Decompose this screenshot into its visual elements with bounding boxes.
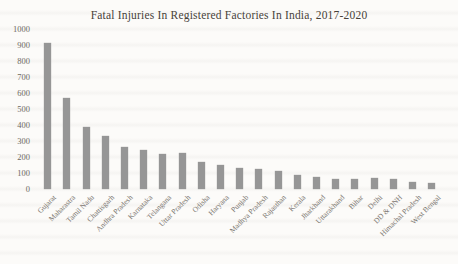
bar-west-bengal	[428, 183, 435, 189]
x-axis-label-bihar: Bihar	[347, 193, 365, 211]
y-axis-tick: 200	[0, 152, 30, 162]
bar-kerala	[294, 175, 301, 189]
bar-maharastra	[63, 98, 70, 189]
y-axis-tick: 1000	[0, 24, 30, 34]
bar-madhya-pradesh	[255, 169, 262, 189]
y-axis-tick: 100	[0, 168, 30, 178]
bar-andhra-pradesh	[121, 147, 128, 189]
plot-area: 01002003004005006007008009001000GujaratM…	[0, 0, 458, 264]
y-axis-tick: 400	[0, 120, 30, 130]
bar-jharkhand	[313, 177, 320, 189]
bar-bihar	[351, 179, 358, 189]
bar-odisha	[198, 162, 205, 189]
bar-karnataka	[140, 150, 147, 189]
bar-haryana	[217, 165, 224, 189]
y-axis-tick: 500	[0, 104, 30, 114]
y-axis-tick: 800	[0, 56, 30, 66]
bar-uttar-pradesh	[179, 153, 186, 189]
y-axis-tick: 900	[0, 40, 30, 50]
y-axis-tick: 300	[0, 136, 30, 146]
bar-himachal-pradesh	[409, 182, 416, 189]
y-axis-tick: 700	[0, 72, 30, 82]
bar-uttarakhand	[332, 179, 339, 189]
bar-gujarat	[44, 43, 51, 189]
bar-telangana	[159, 154, 166, 189]
bar-tamil-nadu	[83, 127, 90, 189]
bar-dd-dnh	[390, 179, 397, 189]
bar-chattisgarh	[102, 136, 109, 189]
bar-punjab	[236, 168, 243, 189]
y-axis-tick: 600	[0, 88, 30, 98]
bar-rajasthan	[275, 171, 282, 189]
y-axis-tick: 0	[0, 184, 30, 194]
x-axis-label-haryana: Haryana	[206, 193, 230, 217]
bar-delhi	[371, 178, 378, 189]
chart: Fatal Injuries In Registered Factories I…	[0, 0, 458, 264]
